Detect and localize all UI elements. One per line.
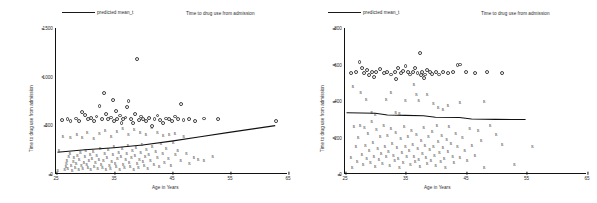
scatter-point <box>104 112 108 116</box>
scatter-point: R <box>158 166 160 170</box>
scatter-point: R <box>370 112 372 116</box>
scatter-point: R <box>430 160 432 164</box>
scatter-point: R <box>415 134 417 138</box>
scatter-point: R <box>451 156 453 160</box>
scatter-point: R <box>149 161 151 165</box>
scatter-point: R <box>378 159 380 163</box>
scatter-point: R <box>350 158 352 162</box>
scatter-point: R <box>442 148 444 152</box>
y-axis-tick-mark <box>49 174 52 175</box>
scatter-point: R <box>364 145 366 149</box>
x-axis-tick-mark <box>288 172 289 175</box>
scatter-point <box>187 118 191 122</box>
scatter-point: R <box>99 148 101 152</box>
scatter-point: R <box>165 148 167 152</box>
scatter-point: R <box>419 166 421 170</box>
scatter-point: R <box>413 156 415 160</box>
scatter-point: R <box>185 153 187 157</box>
scatter-point <box>135 57 139 61</box>
scatter-point: R <box>162 135 164 139</box>
scatter-point: R <box>94 162 96 166</box>
scatter-point: R <box>373 156 375 160</box>
scatter-point: R <box>361 154 363 158</box>
scatter-point: R <box>172 142 174 146</box>
scatter-point: R <box>86 132 88 136</box>
scatter-point: R <box>144 157 146 161</box>
scatter-point: R <box>137 167 139 171</box>
scatter-point: R <box>447 151 449 155</box>
scatter-point <box>358 60 362 64</box>
scatter-point <box>60 118 64 122</box>
y-axis-tick-label: 1500 <box>43 26 56 31</box>
x-axis-tick-mark <box>587 172 588 175</box>
scatter-point: R <box>398 113 400 117</box>
y-axis-tick-mark <box>333 101 336 102</box>
scatter-point: R <box>174 133 176 137</box>
scatter-point: R <box>385 157 387 161</box>
scatter-point: R <box>75 163 77 167</box>
scatter-point <box>147 116 151 120</box>
scatter-point <box>393 70 397 74</box>
scatter-point: R <box>448 127 450 131</box>
scatter-point: R <box>123 167 125 171</box>
scatter-point: R <box>374 166 376 170</box>
scatter-point: R <box>193 157 195 161</box>
scatter-point: R <box>421 153 423 157</box>
scatter-point: R <box>73 158 75 162</box>
scatter-point: R <box>121 128 123 132</box>
right-panel: predicted mean_t Time to drug use from a… <box>299 0 597 203</box>
scatter-point: R <box>102 160 104 164</box>
scatter-point: R <box>391 143 393 147</box>
scatter-point: R <box>359 125 361 129</box>
scatter-point: R <box>66 161 68 165</box>
scatter-point: R <box>106 157 108 161</box>
scatter-point: R <box>139 152 141 156</box>
scatter-point <box>396 66 400 70</box>
scatter-point: R <box>62 136 64 140</box>
scatter-point: R <box>464 150 466 154</box>
scatter-point <box>485 70 489 74</box>
scatter-point: R <box>468 128 470 132</box>
scatter-point: R <box>381 163 383 167</box>
scatter-point: R <box>92 138 94 142</box>
scatter-point: R <box>148 154 150 158</box>
scatter-point: R <box>98 133 100 137</box>
scatter-point: R <box>353 127 355 131</box>
y-axis-tick-label: 600 <box>334 62 345 67</box>
scatter-point: R <box>365 99 367 103</box>
scatter-point: R <box>461 138 463 142</box>
scatter-point: R <box>395 112 397 116</box>
scatter-point: R <box>90 169 92 173</box>
scatter-point: R <box>127 134 129 138</box>
scatter-point: R <box>127 145 129 149</box>
scatter-point: R <box>77 169 79 173</box>
x-axis-tick-label: 55 <box>524 173 529 181</box>
scatter-point: R <box>495 134 497 138</box>
scatter-point <box>116 117 120 121</box>
scatter-point: R <box>177 150 179 154</box>
scatter-point: R <box>76 134 78 138</box>
scatter-point: R <box>81 168 83 172</box>
scatter-point <box>418 51 422 55</box>
scatter-point: R <box>81 138 83 142</box>
scatter-point: R <box>513 164 515 168</box>
scatter-point: R <box>456 147 458 151</box>
scatter-point: R <box>156 158 158 162</box>
y-axis-title: Time to drug use from admission <box>29 85 34 152</box>
scatter-point: R <box>360 92 362 96</box>
scatter-point <box>77 119 81 123</box>
scatter-point <box>150 124 154 128</box>
scatter-point <box>422 76 426 80</box>
x-axis-tick-label: 25 <box>342 173 347 181</box>
scatter-point: R <box>438 152 440 156</box>
y-axis-tick-mark <box>44 125 47 126</box>
x-axis-tick-label: 65 <box>285 173 290 181</box>
scatter-point: R <box>384 146 386 150</box>
x-axis-tick-label: 65 <box>584 173 589 181</box>
scatter-point: R <box>403 127 405 131</box>
scatter-point: R <box>471 145 473 149</box>
scatter-point: R <box>145 149 147 153</box>
scatter-point: R <box>160 143 162 147</box>
scatter-point: R <box>133 129 135 133</box>
scatter-point: R <box>146 168 148 172</box>
